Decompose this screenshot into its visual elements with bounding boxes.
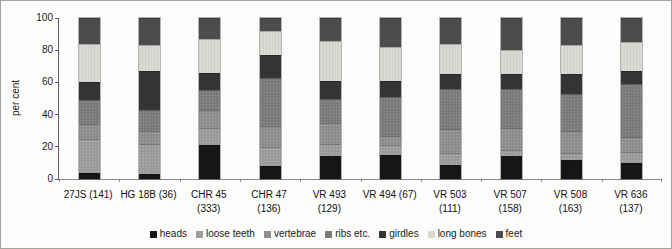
segment-vertebrae — [561, 131, 582, 154]
segment-vertebrae — [139, 131, 160, 144]
stacked-bar-vr-636-137 — [621, 18, 642, 179]
segment-feet — [561, 18, 582, 45]
segment-heads — [79, 173, 100, 179]
segment-girdles — [139, 71, 160, 110]
legend-swatch-icon — [325, 231, 332, 238]
category-label-line: HG 18B (36) — [118, 188, 178, 202]
legend-item: loose teeth — [196, 229, 255, 239]
segment-vertebrae — [320, 123, 341, 144]
plot-area: 020406080100 — [58, 18, 662, 180]
x-axis-tick — [481, 179, 482, 182]
x-axis-labels: 27JS (141)HG 18B (36)CHR 45(333)CHR 47(1… — [58, 188, 661, 216]
y-axis-title: per cent — [10, 68, 22, 128]
category-label: HG 18B (36) — [118, 188, 178, 216]
category-label: VR 636(137) — [601, 188, 661, 216]
category-label-line: VR 636 — [601, 188, 661, 202]
segment-girdles — [380, 81, 401, 97]
y-axis-tick-label: 40 — [26, 110, 53, 120]
stacked-bar-vr-494-67 — [380, 18, 401, 179]
segment-long-bones — [320, 41, 341, 81]
segment-heads — [501, 156, 522, 179]
stacked-bar-hg-18b-36 — [139, 18, 160, 179]
category-label-line: VR 503 — [420, 188, 480, 202]
segment-vertebrae — [621, 137, 642, 151]
stacked-bar-vr-507-158 — [501, 18, 522, 179]
category-label-line: (163) — [540, 202, 600, 216]
legend-item: feet — [496, 229, 523, 239]
bar-slot — [360, 18, 420, 179]
segment-long-bones — [561, 45, 582, 74]
x-axis-tick — [541, 179, 542, 182]
segment-ribs-etc — [320, 99, 341, 123]
segment-ribs-etc — [561, 94, 582, 131]
category-label: VR 503(111) — [420, 188, 480, 216]
segment-feet — [440, 18, 461, 44]
bar-slot — [602, 18, 662, 179]
segment-loose-teeth — [621, 152, 642, 163]
segment-heads — [139, 174, 160, 179]
segment-loose-teeth — [440, 153, 461, 164]
segment-ribs-etc — [440, 89, 461, 129]
category-label-line: CHR 47 — [239, 188, 299, 202]
segment-vertebrae — [199, 110, 220, 128]
stacked-bar-vr-493-129 — [320, 18, 341, 179]
y-axis-tick-label: 60 — [26, 77, 53, 87]
segment-loose-teeth — [199, 128, 220, 146]
segment-long-bones — [199, 39, 220, 73]
category-label-line: (158) — [480, 202, 540, 216]
legend-swatch-icon — [264, 231, 271, 238]
bar-slot — [180, 18, 240, 179]
segment-vertebrae — [260, 126, 281, 147]
segment-loose-teeth — [380, 145, 401, 155]
category-label-line: (111) — [420, 202, 480, 216]
segment-vertebrae — [501, 128, 522, 151]
segment-ribs-etc — [139, 110, 160, 131]
y-axis-tick-label: 100 — [26, 13, 53, 23]
category-label: 27JS (141) — [58, 188, 118, 216]
legend-swatch-icon — [379, 231, 386, 238]
segment-heads — [320, 156, 341, 179]
legend-label: girdles — [389, 229, 418, 239]
category-label-line: VR 507 — [480, 188, 540, 202]
category-label-line: VR 493 — [299, 188, 359, 202]
segment-loose-teeth — [79, 139, 100, 173]
segment-girdles — [199, 73, 220, 91]
legend-item: girdles — [379, 229, 418, 239]
legend-label: heads — [160, 229, 187, 239]
segment-loose-teeth — [320, 144, 341, 157]
stacked-bar-chr-45-333 — [199, 18, 220, 179]
x-axis-tick — [300, 179, 301, 182]
legend-swatch-icon — [428, 231, 435, 238]
legend-item: heads — [150, 229, 187, 239]
bars-row — [59, 18, 662, 179]
segment-heads — [380, 155, 401, 179]
category-label-line: VR 508 — [540, 188, 600, 202]
segment-girdles — [501, 74, 522, 88]
segment-girdles — [621, 71, 642, 84]
segment-heads — [561, 160, 582, 179]
bar-slot — [300, 18, 360, 179]
segment-ribs-etc — [260, 78, 281, 126]
segment-feet — [320, 18, 341, 41]
x-axis-tick — [661, 179, 662, 182]
category-label: CHR 47(136) — [239, 188, 299, 216]
x-axis-tick — [240, 179, 241, 182]
segment-feet — [260, 18, 281, 31]
segment-vertebrae — [380, 136, 401, 146]
stacked-bar-vr-503-111 — [440, 18, 461, 179]
segment-girdles — [260, 55, 281, 78]
category-label-line: (137) — [601, 202, 661, 216]
segment-girdles — [561, 74, 582, 93]
segment-girdles — [320, 81, 341, 99]
x-axis-tick — [119, 179, 120, 182]
segment-feet — [79, 18, 100, 44]
segment-long-bones — [380, 47, 401, 81]
x-axis-tick — [602, 179, 603, 182]
y-axis-tick-label: 20 — [26, 142, 53, 152]
segment-long-bones — [501, 50, 522, 74]
category-label-line: (333) — [179, 202, 239, 216]
y-axis-tick-label: 0 — [26, 174, 53, 184]
legend: headsloose teethvertebraeribs etc.girdle… — [1, 229, 671, 239]
segment-long-bones — [621, 42, 642, 71]
segment-loose-teeth — [139, 144, 160, 175]
